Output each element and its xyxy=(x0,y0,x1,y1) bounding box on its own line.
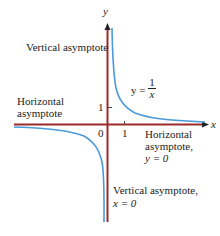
y-tick-label: 1 xyxy=(98,101,104,113)
y-axis-arrow-icon xyxy=(105,23,111,30)
x-axis-label: x xyxy=(211,118,216,130)
horizontal-asymptote-left-line2: asymptote xyxy=(17,107,62,119)
horizontal-asymptote-right-line2: asymptote, xyxy=(145,140,193,152)
vertical-asymptote-bottom-line1: Vertical asymptote, xyxy=(113,184,198,196)
origin-label: 0 xyxy=(98,127,104,139)
y-axis-label: y xyxy=(103,5,108,17)
fraction-denominator: x xyxy=(148,89,156,100)
x-tick-label: 1 xyxy=(122,127,128,139)
horizontal-asymptote-right-line1: Horizontal xyxy=(145,128,192,140)
vertical-asymptote-bottom-eq: x = 0 xyxy=(113,197,136,209)
curve-left-branch xyxy=(14,127,104,222)
function-lhs: y = xyxy=(131,84,145,96)
vertical-asymptote-top-label: Vertical asymptote xyxy=(26,41,108,53)
horizontal-asymptote-left-line1: Horizontal xyxy=(17,95,64,107)
function-fraction: 1 x xyxy=(148,77,156,100)
function-label: y = xyxy=(131,84,145,96)
curve-right-branch xyxy=(112,28,205,122)
horizontal-asymptote-right-eq: y = 0 xyxy=(145,152,168,164)
